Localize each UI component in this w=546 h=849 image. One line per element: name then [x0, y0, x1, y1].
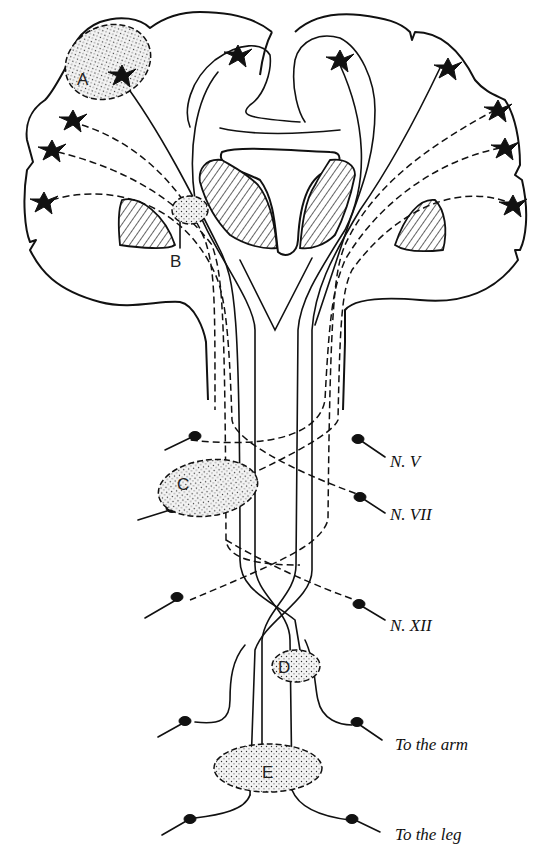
lesion-label-E: E: [262, 763, 273, 782]
arm-branch-left: [195, 645, 245, 723]
leg-branch-right: [292, 790, 350, 820]
n5-left-axon: [165, 437, 192, 450]
lesion-label-C: C: [177, 475, 189, 494]
cross-to-n12: [226, 540, 355, 600]
lesion-B: [172, 196, 208, 224]
n7-left-axon: [138, 510, 170, 520]
leg-branch-left: [195, 795, 250, 818]
n5-right-neuron-icon: [352, 435, 364, 444]
label-arm: To the arm: [395, 735, 468, 754]
n5-right-axon: [360, 440, 385, 457]
lesion-label-D: D: [278, 658, 290, 677]
lesion-label-A: A: [77, 70, 89, 89]
leg-right-axon: [355, 820, 380, 832]
motor-pathway-diagram: A B C D E N. V N. VII N. XII To the arm …: [0, 0, 546, 849]
arm-left-neuron-icon: [179, 717, 191, 726]
n7-right-neuron-icon: [354, 493, 366, 502]
arm-right-axon: [360, 725, 382, 740]
n12-right-neuron-icon: [353, 600, 365, 609]
leg-right-neuron-icon: [346, 815, 358, 824]
n12-left-neuron-icon: [171, 593, 183, 602]
arm-branch-right: [305, 640, 352, 725]
brainstem-notch: [240, 258, 312, 330]
label-n7: N. VII: [389, 505, 433, 524]
arm-right-neuron-icon: [351, 718, 363, 727]
leg-left-neuron-icon: [184, 815, 196, 824]
leg-left-axon: [162, 820, 188, 835]
n12-left-axon: [145, 600, 176, 618]
n7-right-axon: [362, 498, 385, 513]
label-n12: N. XII: [389, 616, 433, 635]
label-n5: N. V: [389, 452, 423, 471]
n5-left-neuron-icon: [189, 432, 201, 441]
lesion-label-B: B: [170, 252, 181, 271]
label-leg: To the leg: [395, 825, 461, 844]
